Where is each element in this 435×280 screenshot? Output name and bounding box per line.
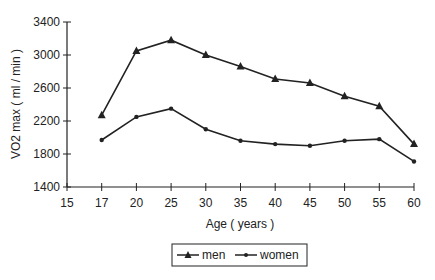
y-tick-label: 1800 bbox=[33, 147, 60, 161]
dot-marker-icon bbox=[100, 138, 104, 142]
legend: men women bbox=[172, 244, 307, 266]
dot-marker-icon bbox=[342, 139, 346, 143]
x-tick-label: 50 bbox=[338, 196, 352, 210]
dot-marker-icon bbox=[308, 144, 312, 148]
series-line-women bbox=[102, 109, 414, 162]
axes: 1400180022002600300034001517202530354045… bbox=[33, 15, 421, 210]
dot-marker-icon bbox=[169, 106, 173, 110]
dot-marker-icon bbox=[412, 159, 416, 163]
legend-women-label: women bbox=[259, 248, 299, 262]
y-tick-label: 1400 bbox=[33, 180, 60, 194]
dot-marker-icon bbox=[244, 253, 248, 257]
y-tick-label: 3000 bbox=[33, 48, 60, 62]
dot-marker-icon bbox=[204, 127, 208, 131]
x-tick-label: 60 bbox=[407, 196, 421, 210]
dot-marker-icon bbox=[273, 142, 277, 146]
series-line-men bbox=[102, 40, 414, 144]
legend-men-label: men bbox=[202, 248, 225, 262]
dot-marker-icon bbox=[238, 139, 242, 143]
x-axis-label: Age ( years ) bbox=[206, 217, 275, 231]
y-tick-label: 3400 bbox=[33, 15, 60, 29]
x-tick-label: 55 bbox=[373, 196, 387, 210]
x-tick-label: 30 bbox=[199, 196, 213, 210]
x-tick-label: 15 bbox=[60, 196, 74, 210]
y-axis-label: VO2 max ( ml / min ) bbox=[9, 49, 23, 159]
y-tick-label: 2200 bbox=[33, 114, 60, 128]
x-tick-label: 40 bbox=[269, 196, 283, 210]
x-tick-label: 20 bbox=[130, 196, 144, 210]
dot-marker-icon bbox=[134, 115, 138, 119]
triangle-marker-icon bbox=[98, 111, 106, 119]
dot-marker-icon bbox=[377, 137, 381, 141]
x-tick-label: 45 bbox=[303, 196, 317, 210]
x-tick-label: 35 bbox=[234, 196, 248, 210]
x-tick-label: 17 bbox=[95, 196, 109, 210]
triangle-marker-icon bbox=[167, 36, 175, 44]
y-tick-label: 2600 bbox=[33, 81, 60, 95]
x-tick-label: 25 bbox=[164, 196, 178, 210]
series-layer bbox=[98, 36, 418, 164]
vo2max-line-chart: 1400180022002600300034001517202530354045… bbox=[0, 0, 435, 280]
